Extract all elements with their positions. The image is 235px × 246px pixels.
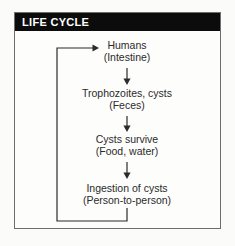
figure-header: LIFE CYCLE xyxy=(15,13,220,31)
node-ingestion: Ingestion of cysts (Person-to-person) xyxy=(47,182,207,206)
node-label: Cysts survive xyxy=(47,133,207,145)
node-sublabel: (Person-to-person) xyxy=(47,194,207,206)
node-label: Trophozoites, cysts xyxy=(47,87,207,99)
node-label: Ingestion of cysts xyxy=(47,182,207,194)
node-sublabel: (Feces) xyxy=(47,99,207,111)
figure-title: LIFE CYCLE xyxy=(22,16,89,28)
node-sublabel: (Intestine) xyxy=(47,51,207,63)
node-label: Humans xyxy=(47,39,207,51)
node-cysts-survive: Cysts survive (Food, water) xyxy=(47,133,207,157)
node-humans: Humans (Intestine) xyxy=(47,39,207,63)
node-sublabel: (Food, water) xyxy=(47,145,207,157)
node-trophozoites: Trophozoites, cysts (Feces) xyxy=(47,87,207,111)
